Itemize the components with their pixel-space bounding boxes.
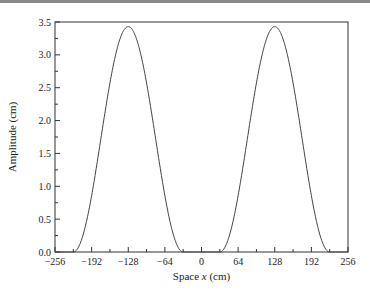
plot-frame	[55, 22, 348, 252]
y-tick-label: 2.0	[39, 115, 52, 126]
x-axis-title: Space x (cm)	[173, 270, 231, 283]
x-tick-label: −64	[157, 256, 173, 267]
x-tick-label: 64	[233, 256, 243, 267]
amplitude-curve	[55, 27, 348, 252]
x-tick-label: −192	[81, 256, 102, 267]
y-tick-label: 3.0	[39, 49, 52, 60]
y-axis-ticks: 0.00.51.01.52.02.53.03.5	[39, 17, 61, 258]
x-tick-label: −256	[45, 256, 66, 267]
x-tick-label: 128	[267, 256, 282, 267]
x-tick-label: 0	[199, 256, 204, 267]
y-tick-label: 2.5	[39, 82, 52, 93]
y-tick-label: 1.5	[39, 148, 52, 159]
y-tick-label: 1.0	[39, 181, 52, 192]
x-tick-label: −128	[118, 256, 139, 267]
x-tick-label: 192	[304, 256, 319, 267]
y-tick-label: 0.5	[39, 214, 52, 225]
x-tick-label: 256	[341, 256, 356, 267]
x-axis-ticks: −256−192−128−64064128192256	[45, 247, 356, 267]
y-tick-label: 3.5	[39, 17, 52, 28]
amplitude-chart: 0.00.51.01.52.02.53.03.5 −256−192−128−64…	[0, 0, 370, 298]
y-axis-title: Amplitude (cm)	[6, 101, 19, 172]
